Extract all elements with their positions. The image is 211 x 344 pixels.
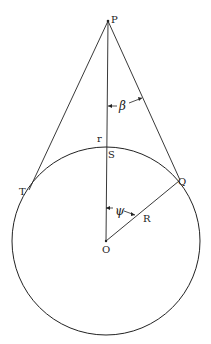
beta-label: β <box>118 99 126 113</box>
label-Q: Q <box>178 176 186 187</box>
label-P: P <box>111 14 118 25</box>
label-O: O <box>102 244 110 255</box>
label-r: r <box>97 133 102 144</box>
point-P <box>107 20 110 23</box>
geometry-diagram: β ψ P r S T Q O R <box>0 0 211 344</box>
beta-arrowhead-left <box>108 104 112 108</box>
label-T: T <box>19 186 26 197</box>
psi-label: ψ <box>115 204 125 218</box>
label-S: S <box>108 149 115 160</box>
tangent-line-PT <box>29 21 108 190</box>
psi-arrowhead-right <box>131 212 135 216</box>
label-R: R <box>143 213 151 224</box>
point-O <box>105 240 107 242</box>
beta-arrowhead-right <box>138 97 142 101</box>
